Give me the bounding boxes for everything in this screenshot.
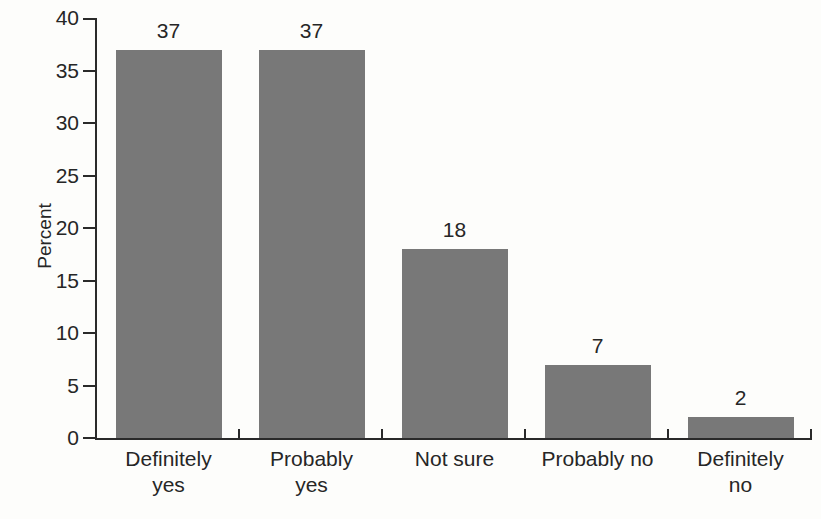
x-axis-tick-4 bbox=[667, 429, 669, 438]
bar-value-label-4: 2 bbox=[735, 386, 747, 410]
y-axis-tick-25 bbox=[83, 175, 95, 177]
y-axis-tick-label-40: 40 bbox=[35, 6, 79, 30]
bar-chart-figure: Percent 051015202530354037Definitelyyes3… bbox=[0, 0, 821, 519]
x-axis-label-line: Not sure bbox=[415, 446, 494, 472]
x-axis-label-line: no bbox=[697, 472, 783, 498]
x-axis-label-line: Definitely bbox=[697, 446, 783, 472]
bar-4 bbox=[688, 417, 794, 438]
x-axis-tick-1 bbox=[238, 429, 240, 438]
x-axis-label-2: Not sure bbox=[415, 446, 494, 472]
y-axis-tick-label-35: 35 bbox=[35, 59, 79, 83]
y-axis-tick-label-25: 25 bbox=[35, 164, 79, 188]
x-axis-label-line: yes bbox=[125, 472, 211, 498]
x-axis-label-line: Definitely bbox=[125, 446, 211, 472]
x-axis-label-line: Probably no bbox=[541, 446, 653, 472]
y-axis-tick-label-0: 0 bbox=[35, 426, 79, 450]
x-axis-label-1: Probablyyes bbox=[270, 446, 353, 499]
y-axis-tick-label-5: 5 bbox=[35, 374, 79, 398]
y-axis-tick-40 bbox=[83, 18, 95, 20]
y-axis-tick-5 bbox=[83, 385, 95, 387]
bar-value-label-2: 18 bbox=[443, 218, 466, 242]
y-axis-tick-15 bbox=[83, 280, 95, 282]
bar-value-label-1: 37 bbox=[300, 19, 323, 43]
bar-0 bbox=[116, 50, 222, 439]
y-axis-tick-20 bbox=[83, 227, 95, 229]
plot-area: 051015202530354037Definitelyyes37Probabl… bbox=[95, 18, 812, 440]
y-axis-tick-label-20: 20 bbox=[35, 216, 79, 240]
x-axis-label-4: Definitelyno bbox=[697, 446, 783, 499]
y-axis-tick-label-15: 15 bbox=[35, 269, 79, 293]
y-axis-tick-30 bbox=[83, 122, 95, 124]
bar-value-label-0: 37 bbox=[157, 19, 180, 43]
x-axis-tick-5 bbox=[810, 429, 812, 438]
y-axis-tick-10 bbox=[83, 332, 95, 334]
y-axis-tick-label-30: 30 bbox=[35, 111, 79, 135]
bar-2 bbox=[402, 249, 508, 438]
y-axis-tick-0 bbox=[83, 437, 95, 439]
bar-1 bbox=[259, 50, 365, 439]
bar-3 bbox=[545, 365, 651, 439]
x-axis-tick-2 bbox=[381, 429, 383, 438]
x-axis-label-line: yes bbox=[270, 472, 353, 498]
x-axis-label-0: Definitelyyes bbox=[125, 446, 211, 499]
x-axis-label-3: Probably no bbox=[541, 446, 653, 472]
x-axis-tick-3 bbox=[524, 429, 526, 438]
x-axis-label-line: Probably bbox=[270, 446, 353, 472]
y-axis-tick-label-10: 10 bbox=[35, 321, 79, 345]
y-axis-tick-35 bbox=[83, 70, 95, 72]
bar-value-label-3: 7 bbox=[592, 334, 604, 358]
